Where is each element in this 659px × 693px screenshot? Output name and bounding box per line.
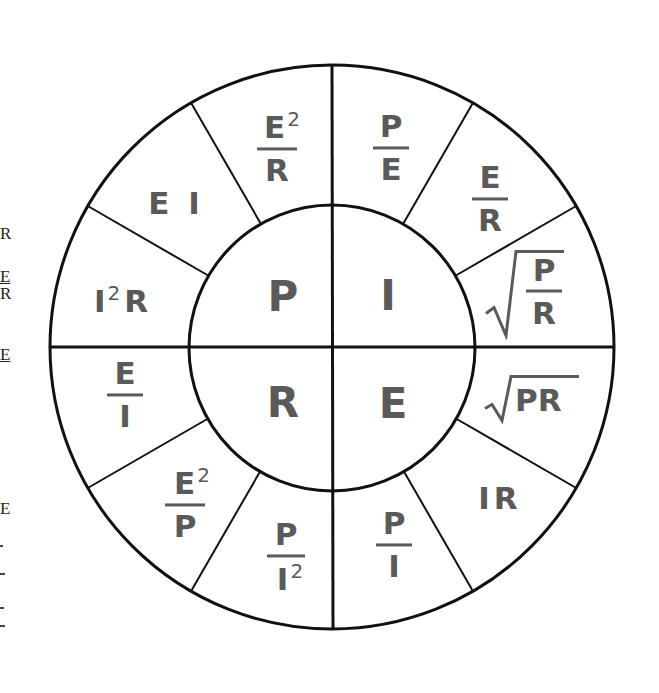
sector-sqrt-p-over-r: P R <box>484 246 584 343</box>
sector-e-over-i: E I <box>107 357 143 432</box>
margin-fragment-e: E <box>0 346 10 363</box>
sector-divider-line <box>404 471 474 591</box>
sector-e2-over-r: E2 R <box>257 109 307 186</box>
sector-p-over-i: P I <box>376 507 412 582</box>
sector-divider-line <box>456 419 576 489</box>
sector-sqrt-pr: PR <box>483 373 583 428</box>
margin-fragment-e-over-r: E R <box>0 268 11 302</box>
sector-divider-line <box>404 103 474 223</box>
sector-e-over-r: E R <box>472 161 508 236</box>
sector-p-over-e: P E <box>373 110 409 185</box>
inner-label-e: E <box>379 383 408 425</box>
ohms-law-wheel: P I R E E2 R E I I2R P E E R P <box>0 0 659 693</box>
margin-fragment-r: R <box>0 225 11 242</box>
sector-ir: IR <box>478 483 521 514</box>
inner-label-r: R <box>267 382 299 424</box>
sector-e2-over-p: E2 P <box>165 465 219 542</box>
inner-label-p: P <box>268 276 299 318</box>
wheel-lines <box>0 0 659 693</box>
margin-fragment-e-2: E <box>0 500 10 517</box>
margin-fragment-ticks <box>0 545 6 625</box>
inner-label-i: I <box>380 275 396 317</box>
sector-ei: E I <box>148 188 204 219</box>
sector-p-over-i2: P I2 <box>267 518 313 595</box>
sector-i2r: I2R <box>94 283 148 317</box>
